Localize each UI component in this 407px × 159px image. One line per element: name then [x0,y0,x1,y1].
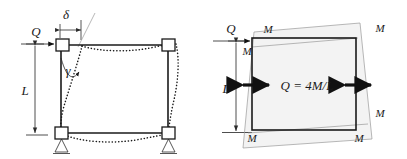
deformed-frame-dotted [61,44,179,142]
pinned-support-right [160,139,177,154]
pinned-support-left [53,139,70,154]
sway-label: δ [63,7,70,22]
engineering-figure: δ Q L [0,0,407,159]
support-triangle-right [162,139,175,152]
joint-bottom-left [55,127,68,139]
moment-label-bottom-left: M [246,132,257,144]
height-dimension [26,44,48,135]
moment-label-top-right: M [374,22,385,34]
load-label: Q [31,24,41,39]
height-label: L [221,81,229,96]
drift-angle-label: γ [65,63,71,78]
sway-dimension [60,20,81,40]
joint-top-right [162,39,175,51]
figure-canvas: δ Q L [0,0,407,159]
height-label: L [20,83,28,98]
deformed-column-right [168,44,178,133]
load-label: Q [226,21,236,36]
joint-top-left [56,39,69,51]
collapse-mechanism-panel: Q L [213,21,385,148]
deformed-column-left [61,46,82,133]
undeformed-frame [61,45,168,133]
moment-label-bottom-right-outer: M [374,107,385,119]
joint-bottom-right [162,127,175,139]
deflected-frame-panel: δ Q L [20,7,178,154]
moment-label-top-left-inner: M [241,45,252,57]
moment-label-top-left-outer: M [262,23,273,35]
deformed-base [62,134,168,142]
collapse-equation: Q = 4M/L [281,78,334,93]
moment-label-bottom-right-inner: M [353,132,364,144]
support-triangle-left [55,139,68,152]
